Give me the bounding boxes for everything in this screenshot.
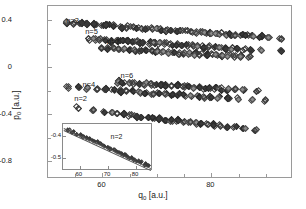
y-tick-label: -0.8 — [0, 156, 12, 165]
figure-scatter-plot: p0 [a.u.] q0 [a.u.] n=3n=5n=7n=6n=4n=2 0… — [0, 0, 306, 209]
y-tick-label: -0.4 — [0, 109, 12, 118]
inset-y-tick — [63, 158, 66, 159]
y-tick — [48, 20, 52, 21]
y-tick-label: 0 — [8, 62, 12, 71]
inset-x-tick-label: 80 — [132, 171, 139, 177]
inset-fit-line — [64, 130, 152, 171]
x-tick-minor — [157, 174, 158, 177]
data-point — [75, 105, 82, 112]
inset-x-tick — [136, 166, 137, 169]
x-tick-minor — [266, 174, 267, 177]
series-label-n7: n=7 — [107, 37, 120, 46]
y-tick-label: 0.4 — [2, 15, 12, 24]
series-label-n2: n=2 — [74, 93, 87, 102]
series-label-n4: n=4 — [82, 79, 95, 88]
y-tick-minor — [48, 44, 51, 45]
x-tick-minor — [184, 174, 185, 177]
y-tick — [48, 114, 52, 115]
y-tick — [48, 161, 52, 162]
y-axis-label: p0 [a.u.] — [11, 90, 22, 119]
series-label-n6: n=6 — [121, 71, 134, 80]
inset-x-tick — [108, 166, 109, 169]
inset-y-tick-label: -0.4 — [51, 132, 61, 138]
inset-y-tick — [63, 136, 66, 137]
data-point — [258, 47, 265, 54]
x-tick-minor — [130, 174, 131, 177]
y-tick-minor — [48, 91, 51, 92]
inset-y-tick-label: -0.5 — [51, 154, 61, 160]
series-label-n5: n=5 — [85, 26, 98, 35]
inset-x-tick-label: 60 — [76, 171, 83, 177]
x-tick-label: 80 — [206, 180, 214, 189]
series-label-n3: n=3 — [66, 16, 79, 25]
x-tick — [211, 173, 212, 177]
x-tick-label: 60 — [97, 180, 105, 189]
inset-fit-line — [64, 128, 152, 169]
x-axis-label: q0 [a.u.] — [0, 190, 306, 201]
inset-plot-area: n=2 — [62, 123, 152, 170]
x-tick-minor — [239, 174, 240, 177]
y-tick — [48, 67, 52, 68]
inset-x-tick — [80, 166, 81, 169]
inset-series-label: n=2 — [111, 133, 123, 140]
inset-x-tick-label: 70 — [104, 171, 111, 177]
